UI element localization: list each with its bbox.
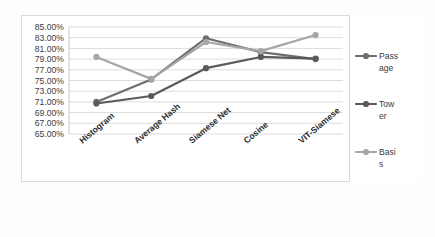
y-axis-tick-label: 67.00% xyxy=(35,118,65,128)
series-point-tower xyxy=(93,100,99,106)
legend-marker-dot-basis xyxy=(363,149,369,155)
y-axis-tick-label: 69.00% xyxy=(35,108,65,118)
x-axis-tick-label: VIT-Siamese xyxy=(296,105,341,145)
series-point-tower xyxy=(203,65,209,71)
y-axis-tick-label: 85.00% xyxy=(35,22,65,32)
y-axis-tick-label: 77.00% xyxy=(35,65,65,75)
y-axis-tick-label: 73.00% xyxy=(35,86,65,96)
y-axis-tick-label: 65.00% xyxy=(35,129,65,139)
plot-area: 85.00%83.00%81.00%79.00%77.00%75.00%73.0… xyxy=(21,15,350,182)
series-point-basis xyxy=(148,76,154,82)
series-point-basis xyxy=(93,54,99,60)
x-axis-tick-label: Histogram xyxy=(77,110,116,145)
legend-label-basis-cont: s xyxy=(379,159,383,169)
legend-marker-dot-passage xyxy=(363,53,369,59)
legend-label-tower: Tow xyxy=(379,99,395,109)
legend-label-passage: Pass xyxy=(379,51,398,61)
chart-legend: PassageTowerBasis xyxy=(352,15,422,182)
series-point-basis xyxy=(258,48,264,54)
y-axis-tick-label: 81.00% xyxy=(35,44,65,54)
legend-label-tower-cont: er xyxy=(379,111,387,121)
series-point-basis xyxy=(203,39,209,45)
y-axis-tick-label: 79.00% xyxy=(35,54,65,64)
x-axis-tick-label: Siamese Net xyxy=(187,105,233,146)
y-axis-tick-label: 75.00% xyxy=(35,76,65,86)
plot-svg: 85.00%83.00%81.00%79.00%77.00%75.00%73.0… xyxy=(22,16,349,181)
legend-label-passage-cont: age xyxy=(379,63,394,73)
chart-container: 85.00%83.00%81.00%79.00%77.00%75.00%73.0… xyxy=(0,0,435,237)
series-point-tower xyxy=(148,93,154,99)
series-point-basis xyxy=(313,32,319,38)
legend-svg: PassageTowerBasis xyxy=(352,15,422,180)
series-point-tower xyxy=(258,54,264,60)
y-axis-tick-label: 71.00% xyxy=(35,97,65,107)
series-point-tower xyxy=(313,55,319,61)
y-axis-tick-label: 83.00% xyxy=(35,33,65,43)
legend-label-basis: Basi xyxy=(379,147,396,157)
legend-marker-dot-tower xyxy=(363,101,369,107)
